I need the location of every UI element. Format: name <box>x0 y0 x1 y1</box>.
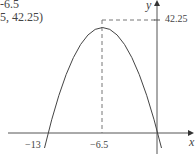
y-tick-label: 42.25 <box>165 14 188 24</box>
x-tick-label-minus-6-5: −6.5 <box>90 140 108 150</box>
annotation-vertex: 5, 42.25) <box>0 11 43 23</box>
x-axis-label: x <box>189 136 194 148</box>
parabola-curve <box>45 28 162 149</box>
x-tick-label-minus-13: −13 <box>25 140 41 150</box>
y-axis-arrow-icon <box>154 0 160 6</box>
y-axis-label: y <box>146 0 151 11</box>
annotation-axis-of-symmetry: -6.5 <box>0 0 19 10</box>
